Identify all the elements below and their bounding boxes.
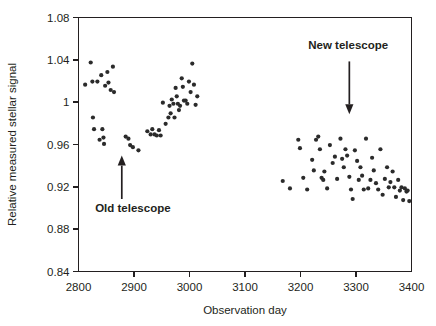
x-tick-label: 2800 [66,281,92,293]
data-point [288,186,292,190]
data-point [167,104,171,108]
data-point [362,187,366,191]
y-tick-label: 1.08 [47,12,69,24]
data-point [189,90,193,94]
data-point [175,94,179,98]
data-point [322,169,326,173]
data-point [190,61,194,65]
data-point [145,129,149,133]
data-point [376,187,380,191]
data-point [281,179,285,183]
data-series-0 [83,60,411,203]
data-point [166,115,170,119]
data-point [90,79,94,83]
data-point [364,137,368,141]
data-point [170,97,174,101]
data-point [180,76,184,80]
data-point [192,83,196,87]
x-axis: 2800290030003100320033003400 [66,272,425,293]
data-point [111,65,115,69]
data-point [368,178,372,182]
chart-canvas: 0.840.880.920.9611.041.08280029003000310… [0,0,436,326]
data-point [126,137,130,141]
data-point [349,187,353,191]
data-point [106,80,110,84]
x-axis-title: Observation day [203,304,287,316]
data-point [343,147,347,151]
data-point [177,108,181,112]
data-point [340,157,344,161]
data-point [372,168,376,172]
data-point [328,143,332,147]
data-point [342,165,346,169]
data-point [331,161,335,165]
y-tick-label: 1.04 [47,54,70,66]
y-tick-label: 0.84 [47,266,70,278]
data-point [194,103,198,107]
x-tick-label: 3100 [232,281,258,293]
data-point [360,174,364,178]
data-point [185,102,189,106]
data-point [338,137,342,141]
data-point [83,83,87,87]
data-point [161,101,165,105]
data-point [159,133,163,137]
data-point [172,115,176,119]
x-tick-label: 2900 [121,281,147,293]
scatter-chart-figure: 0.840.880.920.9611.041.08280029003000310… [0,0,436,326]
x-tick-label: 3000 [177,281,203,293]
annotation-label: New telescope [308,39,388,51]
y-axis-title: Relative measured stellar signal [6,63,18,226]
x-tick-label: 3300 [343,281,369,293]
data-point [181,85,185,89]
data-point [310,158,314,162]
data-point [157,128,161,132]
data-point [178,104,182,108]
data-point [333,155,337,159]
data-point [164,122,168,126]
data-point [394,195,398,199]
x-tick-label: 3200 [288,281,314,293]
data-point [296,138,300,142]
data-point [174,86,178,90]
annotation-label: Old telescope [95,202,170,214]
data-point [92,127,96,131]
data-point [312,168,316,172]
data-point [351,197,355,201]
data-point [392,185,396,189]
y-axis: 0.840.880.920.9611.041.08 [47,12,78,278]
data-point [370,156,374,160]
data-point [112,90,116,94]
data-point [347,175,351,179]
x-tick-label: 3400 [399,281,425,293]
data-point [149,132,153,136]
data-point [301,176,305,180]
data-point [353,148,357,152]
data-point [101,136,105,140]
annotation-old-telescope: Old telescope [95,156,170,214]
data-point [171,102,175,106]
data-point [381,193,385,197]
data-point [345,154,349,158]
data-point [298,146,302,150]
data-point [335,177,339,181]
data-point [387,185,391,189]
data-point [91,115,95,119]
data-point [103,84,107,88]
data-point [150,127,154,131]
data-point [95,79,99,83]
data-point [357,178,361,182]
data-point [401,198,405,202]
data-point [195,94,199,98]
data-point [355,159,359,163]
data-point [358,165,362,169]
data-point [383,177,387,181]
data-point [99,73,103,77]
data-point [100,127,104,131]
data-point [374,181,378,185]
data-point [105,70,109,74]
data-point [388,180,392,184]
annotation-arrow-head [345,104,353,114]
data-point [385,165,389,169]
y-tick-label: 1 [63,96,69,108]
